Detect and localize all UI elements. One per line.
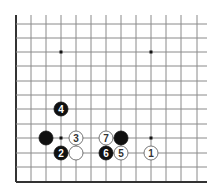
star-point-icon [150, 51, 153, 54]
star-point-icon [60, 51, 63, 54]
black-stone-icon [114, 131, 128, 145]
white-stone-3: 3 [69, 131, 83, 145]
move-number: 5 [118, 148, 124, 159]
stones: 1234567 [39, 102, 158, 160]
move-number: 4 [58, 104, 64, 115]
white-stone-5: 5 [114, 146, 128, 160]
move-number: 2 [58, 148, 64, 159]
white-stone-1: 1 [144, 146, 158, 160]
move-number: 1 [148, 148, 154, 159]
black-stone [39, 131, 53, 145]
black-stone-6: 6 [99, 146, 113, 160]
black-stone-2: 2 [54, 146, 68, 160]
move-number: 3 [73, 133, 79, 144]
white-stone [69, 146, 83, 160]
move-number: 7 [103, 133, 109, 144]
go-board: 1234567 [0, 0, 215, 195]
black-stone-icon [39, 131, 53, 145]
white-stone-icon [69, 146, 83, 160]
white-stone-7: 7 [99, 131, 113, 145]
black-stone-4: 4 [54, 102, 68, 116]
star-point-icon [150, 137, 153, 140]
star-point-icon [60, 137, 63, 140]
black-stone [114, 131, 128, 145]
move-number: 6 [103, 148, 109, 159]
